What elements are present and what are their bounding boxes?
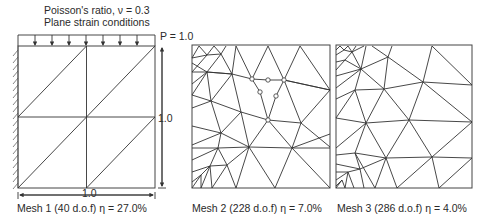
height-dimension [158, 48, 166, 188]
fixed-support-icon [13, 46, 18, 189]
width-dimension [18, 192, 155, 199]
mesh3 [336, 45, 472, 188]
mesh-diagram [0, 0, 485, 224]
mesh1 [13, 35, 166, 199]
distributed-load-icon [18, 35, 155, 46]
mesh2 [192, 45, 330, 188]
